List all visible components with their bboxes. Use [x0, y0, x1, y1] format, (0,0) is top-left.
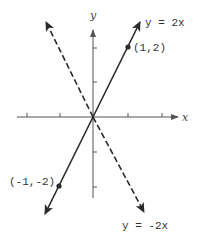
- x-axis: x: [17, 111, 189, 124]
- point-1-2-label: (1,2): [133, 42, 166, 54]
- line-pos-label: y = 2x: [145, 17, 185, 29]
- y-axis-label: y: [89, 9, 97, 22]
- line-neg-lower: [93, 117, 144, 212]
- linear-functions-graph: x y y = -2x y = 2x (1,2) (-1,-2): [0, 0, 199, 234]
- y-axis: y: [89, 9, 97, 198]
- series-y-2x: y = 2x (1,2) (-1,-2): [9, 17, 185, 214]
- line-neg-upper: [46, 22, 93, 117]
- x-axis-label: x: [182, 111, 189, 124]
- point-neg1-neg2: [56, 183, 61, 188]
- point-1-2: [125, 44, 130, 49]
- line-pos-upper: [93, 22, 140, 117]
- line-neg-label: y = -2x: [122, 220, 169, 232]
- point-neg1-neg2-label: (-1,-2): [9, 176, 55, 188]
- line-pos-lower: [45, 117, 93, 214]
